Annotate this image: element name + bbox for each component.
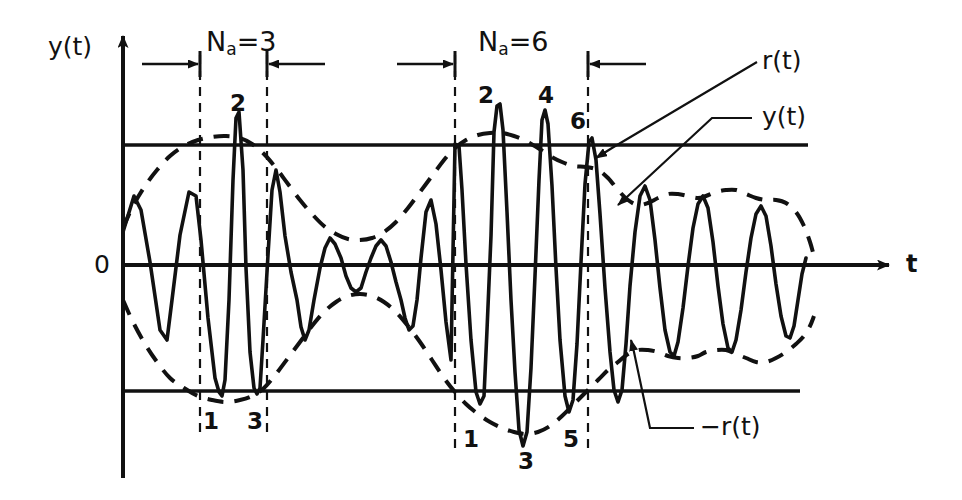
- peak-number-0: 2: [230, 92, 246, 115]
- peak-number-3: 2: [478, 84, 494, 107]
- peak-number-1: 1: [203, 410, 219, 433]
- envelope-curve-rt: [123, 133, 814, 256]
- x-axis-label: t: [906, 252, 917, 276]
- peak-number-8: 5: [563, 428, 579, 451]
- callout-r-t-label: r(t): [762, 48, 802, 73]
- interval-na-3-label-base: N: [206, 26, 226, 57]
- origin-label: 0: [94, 252, 110, 277]
- peak-number-7: 3: [518, 450, 534, 473]
- callout-neg-r-t-label: −r(t): [700, 414, 761, 439]
- interval-na-6-label-value: =6: [509, 26, 549, 57]
- callout-y-t-label: y(t): [762, 104, 806, 129]
- interval-na-3-label-subscript: a: [226, 39, 236, 59]
- signal-curve-group: [123, 104, 806, 446]
- interval-na-3-label-value: =3: [237, 26, 277, 57]
- callout-y-t-leader: [618, 118, 752, 205]
- interval-na-6-label-base: N: [478, 26, 498, 57]
- interval-na-3-label: Na=3: [206, 28, 276, 58]
- signal-envelope-figure: y(t) t 0 Na=3Na=6 213246135 r(t)y(t)−r(t…: [0, 0, 962, 500]
- peak-number-5: 6: [570, 110, 586, 133]
- peak-number-6: 1: [463, 428, 479, 451]
- peak-number-4: 4: [538, 84, 554, 107]
- callout-neg-r-t-leader: [631, 340, 694, 428]
- figure-canvas: [0, 0, 962, 500]
- callout-leaders-group: [596, 62, 757, 428]
- signal-curve: [123, 104, 806, 446]
- interval-na-6-label-subscript: a: [498, 39, 508, 59]
- peak-number-2: 3: [247, 410, 263, 433]
- interval-na-6-label: Na=6: [478, 28, 548, 58]
- y-axis-label: y(t): [48, 34, 92, 59]
